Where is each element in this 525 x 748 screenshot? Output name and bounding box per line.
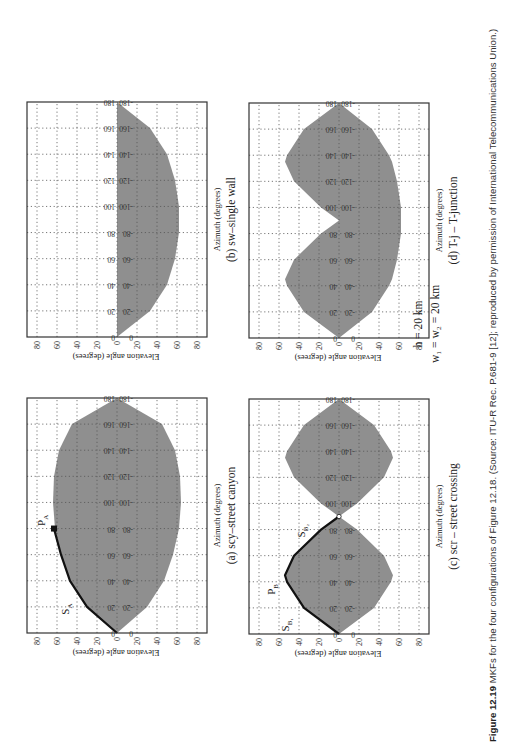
azimuth-tick-label: 80 (107, 525, 115, 534)
azimuth-tick-label: 120 (104, 176, 116, 185)
panel-a-street-canyon: 806040200204060800020-2040-4060-6080-801… (0, 378, 240, 648)
azimuth-tick-label: 40 (107, 281, 115, 290)
azimuth-tick-label: 0 (333, 630, 337, 639)
y-axis-title: Elevation angle (degrees) (248, 649, 428, 659)
y-tick-label: 60 (173, 341, 182, 349)
rotated-page: 806040200204060800020-2040-4060-6080-801… (0, 0, 525, 748)
y-tick-label: 40 (295, 342, 304, 350)
azimuth-tick-label-mirror: -100 (119, 202, 133, 211)
y-axis-title: Elevation angle (degrees) (26, 648, 206, 658)
azimuth-tick-label: 40 (329, 578, 337, 587)
azimuth-tick-label: 160 (326, 125, 338, 134)
x-axis-title: Azimuth (degrees) (434, 399, 444, 634)
azimuth-tick-label-mirror: -60 (345, 552, 355, 561)
azimuth-tick-label-mirror: -60 (123, 255, 133, 264)
azimuth-tick-label: 100 (104, 498, 116, 507)
y-axis-title: Elevation angle (degrees) (26, 352, 206, 362)
azimuth-tick-label-mirror: -140 (119, 446, 133, 455)
azimuth-tick-label: 80 (107, 229, 115, 238)
azimuth-tick-label-mirror: -120 (119, 472, 133, 481)
azimuth-tick-label: 0 (333, 334, 337, 343)
y-tick-label: 80 (193, 341, 202, 349)
azimuth-tick-label: 180 (326, 99, 338, 108)
x-axis-title: Azimuth (degrees) (212, 102, 222, 337)
azimuth-tick-label: 180 (326, 395, 338, 404)
azimuth-tick-label: 100 (104, 202, 116, 211)
parameters-block: h = 20 km w₁ = w₂ = 20 km (410, 274, 444, 374)
azimuth-tick-label-mirror: 0 (129, 333, 133, 342)
y-tick-label: 60 (395, 638, 404, 646)
azimuth-tick-label: 60 (329, 256, 337, 265)
azimuth-tick-label-mirror: 0 (351, 630, 355, 639)
y-tick-label: 60 (395, 342, 404, 350)
azimuth-tick-label-mirror: -40 (345, 578, 355, 587)
azimuth-tick-label-mirror: -120 (341, 473, 355, 482)
y-tick-label: 60 (275, 638, 284, 646)
panel-caption: (c) scr – street crossing (447, 399, 459, 634)
azimuth-tick-label: 100 (326, 499, 338, 508)
azimuth-tick-label: 140 (104, 446, 116, 455)
y-tick-label: 20 (133, 341, 142, 349)
visibility-region (117, 102, 179, 337)
curve-annotation: PB (265, 584, 280, 595)
azimuth-tick-label-mirror: -100 (341, 203, 355, 212)
azimuth-tick-label-mirror: -180 (119, 394, 133, 403)
azimuth-tick-label-mirror: -160 (341, 125, 355, 134)
azimuth-tick-label: 0 (111, 629, 115, 638)
azimuth-tick-label-mirror: -120 (119, 176, 133, 185)
chart-svg: 806040200204060800020-2040-4060-6080-801… (0, 82, 240, 352)
azimuth-tick-label-mirror: -80 (345, 230, 355, 239)
y-tick-label: 40 (153, 637, 162, 645)
y-tick-label: 40 (153, 341, 162, 349)
azimuth-tick-label-mirror: -80 (123, 229, 133, 238)
azimuth-tick-label-mirror: -140 (341, 151, 355, 160)
y-tick-label: 80 (255, 638, 264, 646)
azimuth-tick-label-mirror: 0 (129, 629, 133, 638)
y-tick-label: 60 (53, 637, 62, 645)
figure-caption-text: MKFs for the four configurations of Figu… (487, 29, 498, 683)
parameter-w: w₁ = w₂ = 20 km (427, 274, 444, 374)
azimuth-tick-label: 160 (326, 421, 338, 430)
azimuth-tick-label: 60 (107, 551, 115, 560)
azimuth-tick-label: 40 (329, 282, 337, 291)
azimuth-tick-label-mirror: -140 (119, 150, 133, 159)
azimuth-tick-label-mirror: -80 (345, 526, 355, 535)
azimuth-tick-label-mirror: -40 (123, 281, 133, 290)
azimuth-tick-label-mirror: -180 (119, 98, 133, 107)
azimuth-tick-label: 180 (104, 98, 116, 107)
figure-number: Figure 12.19 (487, 686, 498, 742)
y-tick-label: 60 (53, 341, 62, 349)
azimuth-tick-label: 20 (329, 604, 337, 613)
azimuth-tick-label: 20 (107, 307, 115, 316)
y-tick-label: 60 (173, 637, 182, 645)
y-tick-label: 20 (315, 342, 324, 350)
y-tick-label: 40 (375, 342, 384, 350)
crossing-point-marker (337, 514, 341, 518)
visibility-region (285, 103, 401, 338)
chart-svg: 806040200204060800020-2040-4060-6080-801… (222, 379, 462, 649)
x-axis-title: Azimuth (degrees) (212, 398, 222, 633)
y-tick-label: 40 (73, 637, 82, 645)
azimuth-tick-label: 140 (326, 447, 338, 456)
azimuth-tick-label: 60 (329, 552, 337, 561)
azimuth-tick-label: 140 (326, 151, 338, 160)
azimuth-tick-label-mirror: -160 (341, 421, 355, 430)
azimuth-tick-label: 120 (104, 472, 116, 481)
azimuth-tick-label-mirror: -40 (345, 282, 355, 291)
y-tick-label: 60 (275, 342, 284, 350)
parameter-h: h = 20 km (410, 274, 427, 374)
curve-annotation: SB₁ (279, 618, 294, 631)
azimuth-tick-label-mirror: -100 (341, 499, 355, 508)
y-tick-label: 40 (295, 638, 304, 646)
azimuth-tick-label: 160 (104, 420, 116, 429)
azimuth-tick-label: 80 (329, 230, 337, 239)
azimuth-tick-label: 40 (107, 577, 115, 586)
y-tick-label: 40 (375, 638, 384, 646)
azimuth-tick-label: 180 (104, 394, 116, 403)
y-tick-label: 80 (415, 638, 424, 646)
azimuth-tick-label-mirror: -180 (341, 395, 355, 404)
azimuth-tick-label: 140 (104, 150, 116, 159)
y-tick-label: 20 (93, 637, 102, 645)
chart-svg: 806040200204060800020-2040-4060-6080-801… (0, 378, 240, 648)
azimuth-tick-label-mirror: -60 (345, 256, 355, 265)
